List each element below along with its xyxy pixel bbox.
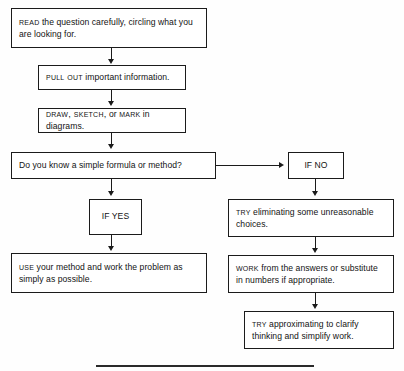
node-try-eliminating-lead: TRY bbox=[236, 207, 251, 217]
arrowhead-work-to-approximating-icon bbox=[312, 304, 318, 309]
node-read-lead: READ bbox=[19, 17, 39, 27]
node-draw-mid: or bbox=[107, 109, 120, 119]
node-try-approximating-text: TRY approximating to clarify thinking an… bbox=[252, 318, 386, 343]
node-pull-out-rest: important information. bbox=[83, 72, 170, 82]
node-work-answers-lead: WORK bbox=[236, 263, 259, 273]
arrowhead-pullout-to-draw-icon bbox=[108, 101, 114, 106]
node-use-method: USE your method and work the problem as … bbox=[11, 253, 207, 293]
node-pull-out: PULL OUT important information. bbox=[38, 65, 186, 90]
node-try-eliminating: TRY eliminating some unreasonable choice… bbox=[228, 199, 394, 237]
footer-rule-divider bbox=[96, 365, 314, 367]
node-pull-out-lead: PULL OUT bbox=[46, 72, 83, 82]
arrowhead-eliminating-to-work-icon bbox=[312, 248, 318, 253]
node-if-no: IF NO bbox=[288, 152, 344, 179]
flowchart-canvas: READ the question carefully, circling wh… bbox=[0, 0, 404, 371]
connector-decision-to-ifno bbox=[216, 165, 280, 166]
node-draw-lead2: MARK bbox=[119, 109, 140, 119]
node-if-yes: IF YES bbox=[89, 199, 142, 235]
node-decision-text: Do you know a simple formula or method? bbox=[19, 160, 208, 172]
arrowhead-decision-to-ifyes-icon bbox=[108, 191, 114, 196]
node-try-approximating: TRY approximating to clarify thinking an… bbox=[244, 311, 394, 349]
node-draw-sketch-mark: DRAW, SKETCH, or MARK in diagrams. bbox=[38, 108, 186, 133]
node-read: READ the question carefully, circling wh… bbox=[11, 8, 207, 48]
node-use-method-text: USE your method and work the problem as … bbox=[19, 261, 199, 286]
node-if-yes-text: IF YES bbox=[97, 211, 134, 223]
node-try-eliminating-text: TRY eliminating some unreasonable choice… bbox=[236, 206, 386, 231]
node-if-no-text: IF NO bbox=[296, 160, 336, 172]
node-read-text: READ the question carefully, circling wh… bbox=[19, 16, 199, 41]
node-decision: Do you know a simple formula or method? bbox=[11, 152, 216, 179]
arrowhead-ifyes-to-usemethod-icon bbox=[108, 246, 114, 251]
node-draw-text: DRAW, SKETCH, or MARK in diagrams. bbox=[46, 108, 178, 133]
node-draw-lead: DRAW, SKETCH, bbox=[46, 109, 107, 119]
node-try-approximating-lead: TRY bbox=[252, 319, 267, 329]
arrowhead-draw-to-decision-icon bbox=[108, 144, 114, 149]
node-try-eliminating-rest: eliminating some unreasonable choices. bbox=[236, 207, 373, 229]
arrowhead-ifno-to-eliminating-icon bbox=[312, 191, 318, 196]
node-use-method-lead: USE bbox=[19, 262, 34, 272]
arrowhead-decision-to-ifno-icon bbox=[279, 162, 284, 168]
node-try-approximating-rest: approximating to clarify thinking and si… bbox=[252, 319, 359, 341]
node-pull-out-text: PULL OUT important information. bbox=[46, 71, 178, 84]
node-work-answers: WORK from the answers or substitute in n… bbox=[228, 255, 394, 293]
node-read-rest: the question carefully, circling what yo… bbox=[19, 17, 193, 39]
node-use-method-rest: your method and work the problem as simp… bbox=[19, 262, 183, 284]
node-work-answers-text: WORK from the answers or substitute in n… bbox=[236, 262, 386, 287]
arrowhead-read-to-pullout-icon bbox=[108, 59, 114, 64]
